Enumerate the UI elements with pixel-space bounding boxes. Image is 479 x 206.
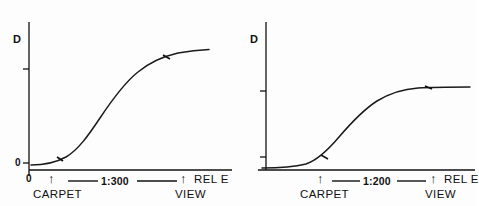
x-zero-label-left: 0 [26,174,32,184]
x-axis-label-right: REL E [444,174,479,186]
view-arrow-icon-right: ↑ [430,172,437,185]
view-label-left: VIEW [175,189,206,201]
carpet-label-left: CARPET [33,189,82,201]
carpet-label-right: CARPET [300,189,349,201]
chart-right-canvas [238,0,476,206]
y-axis-label-right: D [250,34,258,45]
y-axis-label-left: D [13,34,21,45]
carpet-arrow-icon-right: ↑ [317,172,324,185]
view-arrow-icon-left: ↑ [180,172,187,185]
x-axis-label-left: REL E [194,174,229,186]
chart-panel-right: D ↑ CARPET 1:200 ↑ VIEW REL E [238,0,476,206]
curve-right [262,87,470,168]
view-label-right: VIEW [425,189,456,201]
ratio-label-left: 1:300 [101,176,129,187]
ratio-label-right: 1:200 [363,176,391,187]
curve-marker-carpet-right [321,155,328,159]
y-zero-label-left: 0 [15,158,21,168]
curve-left [31,50,209,166]
carpet-arrow-icon-left: ↑ [48,172,55,185]
chart-panel-left: D 0 0 ↑ CARPET 1:300 ↑ VIEW REL E [0,0,238,206]
